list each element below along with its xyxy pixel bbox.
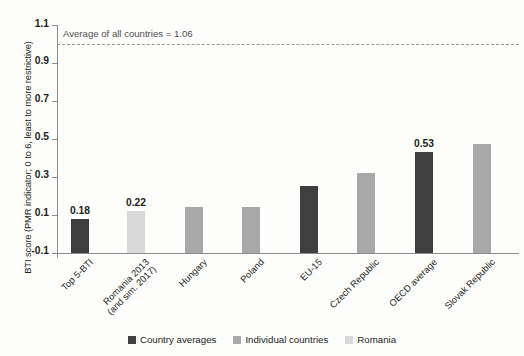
bar-slovak-republic[interactable] xyxy=(473,144,491,252)
x-label-poland: Poland xyxy=(239,257,267,285)
bar-oecd-average[interactable]: 0.53 xyxy=(415,152,433,253)
x-label-line: OECD average xyxy=(387,257,439,309)
y-tick-6: -0.1 xyxy=(52,253,57,254)
bar-poland[interactable] xyxy=(242,207,260,253)
x-label-line: Hungary xyxy=(177,257,209,289)
x-label-line: Czech Republic xyxy=(328,257,381,310)
x-label-line: EU-15 xyxy=(298,257,324,283)
legend-swatch-icon xyxy=(233,336,241,344)
legend-item-romania[interactable]: Romania xyxy=(345,334,396,345)
x-label-line: Slovak Republic xyxy=(443,257,497,311)
legend-item-individual-countries[interactable]: Individual countries xyxy=(233,334,328,345)
legend-swatch-icon xyxy=(345,336,353,344)
y-tick-5: 0.1 xyxy=(52,215,57,216)
bar-chart: BTI score (PMR indicator; 0 to 6, least … xyxy=(0,0,524,356)
y-tick-label-4: 0.3 xyxy=(35,169,49,180)
y-tick-2: 0.7 xyxy=(52,101,57,102)
bar-value-romania-2013: 0.22 xyxy=(126,197,146,208)
chart-legend: Country averages Individual countries Ro… xyxy=(0,334,524,345)
legend-swatch-icon xyxy=(128,336,136,344)
x-label-slovak-republic: Slovak Republic xyxy=(443,257,497,311)
bar-value-oecd-average: 0.53 xyxy=(414,138,434,149)
x-label-eu-15: EU-15 xyxy=(298,257,324,283)
bar-eu-15[interactable] xyxy=(300,186,318,253)
bar-value-top-5-bti: 0.18 xyxy=(70,205,90,216)
x-label-czech-republic: Czech Republic xyxy=(328,257,381,310)
average-reference-line xyxy=(57,44,519,45)
legend-label: Country averages xyxy=(140,334,216,345)
y-axis-title: BTI score (PMR indicator; 0 to 6, least … xyxy=(22,13,33,303)
x-label-hungary: Hungary xyxy=(177,257,209,289)
x-label-oecd-average: OECD average xyxy=(387,257,439,309)
y-tick-label-0: 1.1 xyxy=(35,18,49,29)
bar-top-5-bti[interactable]: 0.18 xyxy=(71,219,89,253)
y-tick-label-6: -0.1 xyxy=(31,245,49,256)
legend-label: Romania xyxy=(357,334,396,345)
bar-romania-2013[interactable]: 0.22 xyxy=(127,211,145,253)
y-tick-1: 0.9 xyxy=(52,63,57,64)
legend-label: Individual countries xyxy=(245,334,328,345)
x-label-line: Top 5-BTI xyxy=(59,257,95,293)
y-tick-label-2: 0.7 xyxy=(35,93,49,104)
x-label-romania-2013: Romania 2013 (and sim. 2017) xyxy=(98,257,158,317)
bar-czech-republic[interactable] xyxy=(357,173,375,253)
x-axis-line xyxy=(57,253,519,254)
y-tick-label-5: 0.1 xyxy=(35,207,49,218)
x-label-line: Poland xyxy=(239,257,267,285)
bar-hungary[interactable] xyxy=(185,207,203,253)
plot-area: 1.1 0.9 0.7 0.5 0.3 0.1 -0.1 Average of … xyxy=(57,25,519,253)
y-tick-label-3: 0.5 xyxy=(35,131,49,142)
y-tick-label-1: 0.9 xyxy=(35,55,49,66)
y-tick-4: 0.3 xyxy=(52,177,57,178)
legend-item-country-averages[interactable]: Country averages xyxy=(128,334,216,345)
average-reference-label: Average of all countries = 1.06 xyxy=(63,28,193,39)
y-tick-0: 1.1 xyxy=(52,25,57,26)
x-label-top-5-bti: Top 5-BTI xyxy=(59,257,95,293)
y-axis-line xyxy=(57,25,58,258)
y-tick-3: 0.5 xyxy=(52,139,57,140)
